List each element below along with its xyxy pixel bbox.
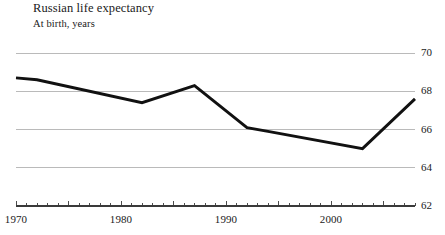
y-axis-tick-label: 68 [421, 85, 432, 96]
x-axis-tick-label: 1970 [0, 214, 38, 225]
data-series [16, 78, 415, 149]
x-axis-tick-label: 2000 [309, 214, 353, 225]
y-axis-tick-label: 62 [421, 200, 432, 211]
x-axis-tick-label: 1980 [99, 214, 143, 225]
x-axis-tick-label: 1990 [204, 214, 248, 225]
y-axis-tick-label: 70 [421, 47, 432, 58]
y-axis-tick-label: 66 [421, 124, 432, 135]
gridlines [16, 53, 415, 206]
x-axis [16, 201, 415, 206]
series-line [16, 78, 415, 149]
y-axis-tick-label: 64 [421, 162, 432, 173]
chart-page: Russian life expectancy At birth, years … [0, 0, 445, 235]
line-chart-plot [0, 0, 445, 235]
